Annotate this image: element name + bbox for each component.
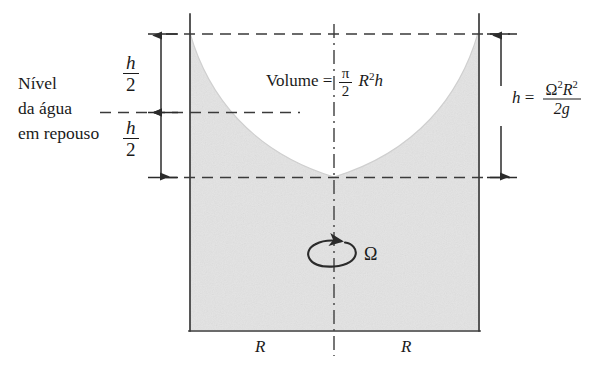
left-dimension-set [148,34,178,178]
dimension-label-h-half-bottom: h 2 [123,118,139,159]
caption-line-2: da água [18,96,99,121]
volume-formula-equals: = [323,71,333,90]
volume-formula: Volume = π 2 R2h [266,66,383,99]
volume-formula-numerator: π [339,66,353,83]
volume-formula-height: h [375,71,384,90]
volume-formula-denominator: 2 [339,83,353,99]
figure-canvas: Nível da água em repouso h 2 h 2 Volume … [0,0,601,369]
height-formula-omega: Ω [546,81,558,98]
h-half-top-denominator: 2 [123,74,139,94]
volume-formula-radius: R [359,71,369,90]
radius-label-left: R [255,338,265,355]
h-half-top-numerator: h [123,53,139,74]
height-formula-denominator: 2g [543,100,581,117]
h-half-bottom-numerator: h [123,118,139,139]
rest-water-level-caption: Nível da água em repouso [18,71,99,146]
dimension-label-h-half-top: h 2 [123,53,139,94]
height-formula-radius: R [563,81,573,98]
omega-label: Ω [364,245,377,263]
height-formula: h = Ω2R2 2g [512,82,581,117]
height-formula-radius-exponent: 2 [573,79,578,90]
h-half-bottom-denominator: 2 [123,139,139,159]
caption-line-3: em repouso [18,121,99,146]
height-formula-lhs: h [512,88,521,107]
height-formula-equals: = [525,88,535,107]
caption-line-1: Nível [18,71,99,96]
radius-label-right: R [401,338,411,355]
rotating-cylinder-diagram [0,0,601,369]
volume-formula-lhs: Volume [266,71,319,90]
